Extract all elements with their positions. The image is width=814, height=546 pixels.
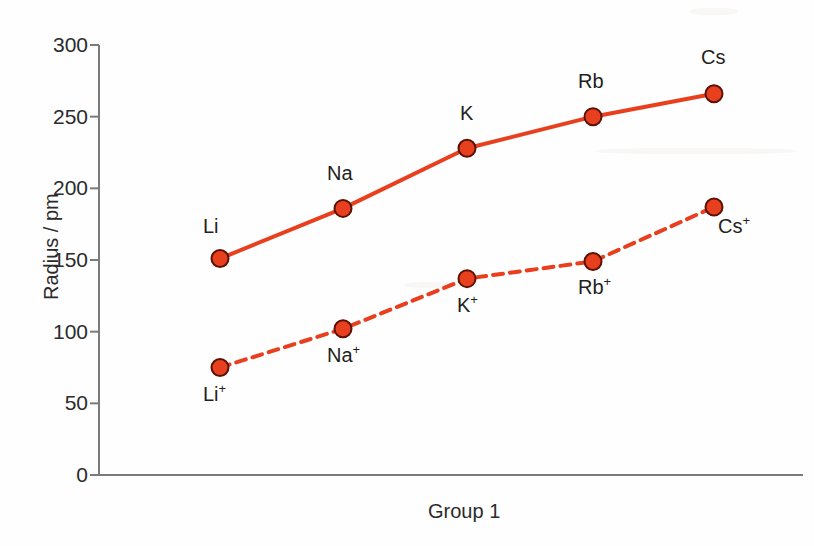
atom-label-cs: Cs — [701, 47, 725, 67]
point-label-text: Cs — [718, 215, 742, 237]
point-label-text: Rb — [578, 70, 604, 92]
y-axis-ticks — [90, 45, 99, 475]
point-label-text: K — [460, 102, 473, 124]
data-point-marker[interactable] — [585, 108, 602, 125]
ion-label-k-plus: K+ — [457, 295, 478, 315]
point-label-text: Na — [327, 344, 353, 366]
ion-label-na-plus: Na+ — [327, 345, 360, 365]
y-tick-label: 0 — [30, 464, 88, 485]
point-label-charge: + — [470, 292, 478, 307]
point-label-text: Li — [203, 383, 219, 405]
x-axis-title: Group 1 — [428, 500, 500, 523]
chart-figure: 300250200150100500 LiNaKRbCsLi+Na+K+Rb+C… — [0, 0, 814, 546]
data-point-marker[interactable] — [459, 270, 476, 287]
point-label-charge: + — [353, 342, 361, 357]
data-point-marker[interactable] — [706, 85, 723, 102]
data-series-group — [212, 85, 723, 376]
y-tick-label: 50 — [30, 392, 88, 413]
data-point-marker[interactable] — [212, 359, 229, 376]
point-label-text: Na — [327, 162, 353, 184]
ion-label-rb-plus: Rb+ — [578, 277, 611, 297]
data-point-marker[interactable] — [335, 320, 352, 337]
point-label-text: Rb — [578, 276, 604, 298]
point-label-charge: + — [604, 275, 612, 290]
point-label-charge: + — [742, 213, 750, 228]
data-point-marker[interactable] — [335, 200, 352, 217]
atom-label-k: K — [460, 103, 473, 123]
data-point-marker[interactable] — [459, 140, 476, 157]
y-tick-label: 100 — [30, 321, 88, 342]
point-label-text: K — [457, 294, 470, 316]
data-point-marker[interactable] — [212, 250, 229, 267]
atom-label-li: Li — [203, 216, 219, 236]
data-point-marker[interactable] — [706, 198, 723, 215]
atom-label-na: Na — [327, 163, 353, 183]
data-point-marker[interactable] — [585, 253, 602, 270]
point-label-text: Cs — [701, 46, 725, 68]
ion-label-li-plus: Li+ — [203, 384, 226, 404]
atom-label-rb: Rb — [578, 71, 604, 91]
y-tick-label: 300 — [30, 34, 88, 55]
axes-group — [90, 45, 803, 475]
plot-canvas — [0, 0, 814, 546]
ion-label-cs-plus: Cs+ — [718, 216, 750, 236]
point-label-charge: + — [219, 381, 227, 396]
y-tick-label: 250 — [30, 106, 88, 127]
point-label-text: Li — [203, 215, 219, 237]
y-axis-title: Radius / pm — [40, 193, 63, 300]
